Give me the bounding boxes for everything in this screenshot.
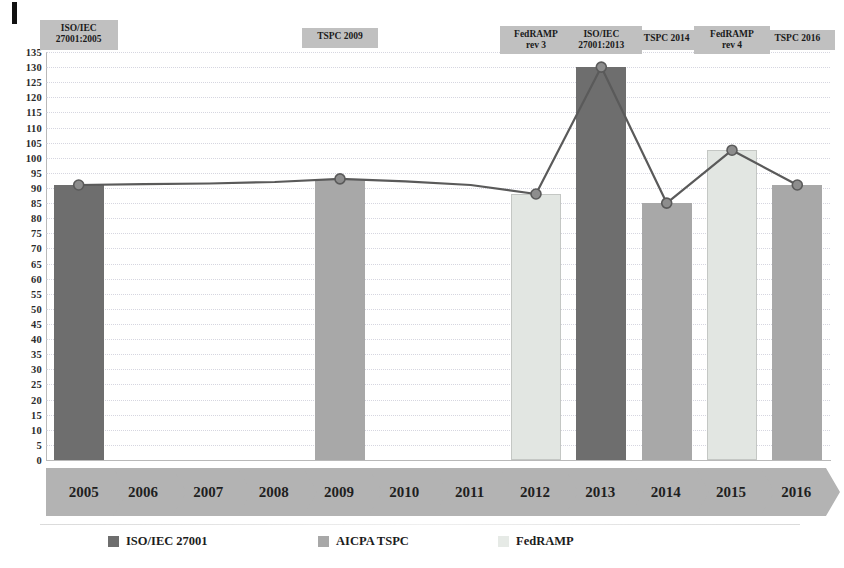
x-axis-year-label: 2011 [455,484,484,501]
y-tick-label: 105 [26,137,42,148]
x-axis-year-label: 2015 [716,484,746,501]
x-axis-year-label: 2006 [128,484,158,501]
x-axis-chevrons: 2005200620072008200920102011201220132014… [46,468,830,516]
legend-swatch-icon [318,536,329,547]
y-tick-label: 90 [31,183,42,194]
bar-2014 [642,203,692,460]
bar-2005 [54,185,104,460]
legend-swatch-icon [108,536,119,547]
y-tick-label: 15 [31,409,42,420]
y-tick-label: 120 [26,92,42,103]
y-tick-label: 115 [26,107,42,118]
y-tick-label: 0 [37,455,42,466]
y-tick-label: 80 [31,213,42,224]
y-tick-label: 20 [31,394,42,405]
x-axis-year-label: 2009 [324,484,354,501]
x-axis-year-label: 2007 [193,484,223,501]
annotation-2016: TSPC 2016 [759,30,835,50]
x-axis-year-label: 2005 [69,484,99,501]
y-tick-label: 110 [26,122,42,133]
bar-2012 [511,194,561,460]
annotation-2009: TSPC 2009 [302,28,378,48]
legend-swatch-icon [498,536,509,547]
y-tick-label: 35 [31,349,42,360]
y-tick-label: 30 [31,364,42,375]
y-tick-label: 85 [31,198,42,209]
annotation-2005: ISO/IEC 27001:2005 [40,20,118,50]
y-tick-label: 55 [31,288,42,299]
y-tick-label: 100 [26,152,42,163]
legend-item-aicpa-tspc[interactable]: AICPA TSPC [318,534,409,549]
x-axis-year-label: 2016 [781,484,811,501]
y-tick-label: 5 [37,439,42,450]
y-tick-label: 70 [31,243,42,254]
legend-label: ISO/IEC 27001 [126,534,208,549]
gridline [46,82,830,83]
y-tick-label: 25 [31,379,42,390]
gridline [46,97,830,98]
x-axis-year-label: 2008 [259,484,289,501]
y-tick-label: 10 [31,424,42,435]
chart-legend: ISO/IEC 27001AICPA TSPCFedRAMP [46,528,830,554]
y-tick-label: 40 [31,334,42,345]
x-axis-year-label: 2010 [389,484,419,501]
annotation-2014: TSPC 2014 [631,30,703,50]
y-tick-label: 130 [26,62,42,73]
gridline [46,128,830,129]
legend-item-iso-iec-27001[interactable]: ISO/IEC 27001 [108,534,208,549]
bar-2016 [772,185,822,460]
bar-2009 [315,179,365,460]
chart-canvas: 1351301251201151101051009590858075706560… [0,0,844,568]
y-tick-label: 95 [31,167,42,178]
bar-2013 [576,67,626,460]
legend-label: FedRAMP [516,534,574,549]
y-tick-label: 50 [31,303,42,314]
x-axis-year-2005[interactable]: 2005 [46,468,127,516]
bar-2015 [707,150,757,460]
y-tick-label: 75 [31,228,42,239]
gridline [46,112,830,113]
scan-line [40,524,800,525]
x-axis-year-label: 2012 [520,484,550,501]
plot-area [46,52,830,460]
x-axis-year-label: 2013 [585,484,615,501]
y-tick-label: 125 [26,77,42,88]
y-axis: 1351301251201151101051009590858075706560… [0,52,42,460]
scan-artifact-mark [12,2,17,24]
y-tick-label: 60 [31,273,42,284]
gridline [46,67,830,68]
x-axis-year-label: 2014 [651,484,681,501]
gridline [46,143,830,144]
y-tick-label: 45 [31,319,42,330]
legend-item-fedramp[interactable]: FedRAMP [498,534,574,549]
y-tick-label: 65 [31,258,42,269]
legend-label: AICPA TSPC [336,534,409,549]
